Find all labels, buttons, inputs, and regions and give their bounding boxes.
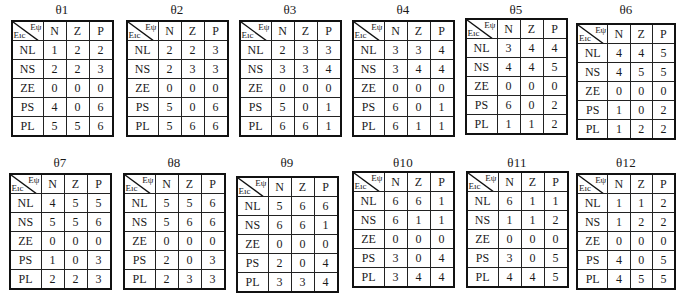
rule-table-t11: EψEıcNZPNL611NS112ZE000PS305PL445 [466,171,569,288]
row-header-ze: ZE [466,77,498,96]
table-row: ZE000 [577,232,675,251]
rule-table-block-t6: θ6EψEıcNZPNL445NS455ZE000PS102PL122 [576,2,676,140]
table-header-row: EψEıcNZP [353,172,454,192]
rule-table-t10: EψEıcNZPNL661NS611ZE000PS304PL344 [352,171,455,288]
table-row: PL566 [127,117,228,137]
cell-ze-z: 0 [64,232,87,251]
cell-nl-n: 5 [155,194,178,213]
corner-row-label: Eıc [579,33,591,43]
cell-ns-n: 4 [497,58,520,77]
column-header-n: N [384,21,407,41]
cell-ps-z: 0 [630,101,652,120]
column-header-p: P [317,21,341,41]
row-header-pl: PL [577,270,608,290]
corner-row-label: Eıc [14,30,26,40]
cell-ns-z: 1 [407,211,430,230]
cell-ps-p: 5 [544,249,568,268]
cell-ns-p: 5 [543,58,567,77]
cell-ps-n: 2 [268,254,291,273]
column-header-z: Z [630,24,652,44]
cell-nl-p: 5 [652,44,675,63]
row-header-nl: NL [10,194,42,213]
rule-table-block-t7: θ7EψEıcNZPNL455NS556ZE000PS103PL223 [6,155,114,290]
cell-ps-z: 0 [407,98,430,117]
column-header-z: Z [181,21,204,41]
column-header-p: P [314,177,338,197]
cell-ze-z: 0 [407,230,430,249]
column-header-n: N [498,172,521,192]
cell-pl-n: 3 [384,268,407,288]
cell-pl-p: 4 [430,268,454,288]
row-header-pl: PL [467,268,499,288]
cell-nl-p: 1 [544,192,568,211]
column-header-z: Z [407,172,430,192]
cell-nl-p: 4 [543,39,567,58]
row-header-ns: NS [240,60,272,79]
cell-pl-z: 6 [294,117,317,137]
row-header-ze: ZE [467,230,499,249]
row-header-nl: NL [240,41,272,60]
rule-table-t3: EψEıcNZPNL233NS334ZE000PS501PL661 [239,20,342,137]
cell-pl-z: 6 [181,117,204,137]
cell-pl-n: 5 [43,117,66,137]
cell-ps-z: 0 [181,98,204,117]
cell-pl-n: 2 [155,270,178,290]
table-row: PL334 [237,273,338,293]
table-header-row: EψEıcNZP [577,24,675,44]
cell-ns-n: 1 [608,213,630,232]
cell-nl-z: 2 [181,41,204,60]
cell-nl-n: 6 [498,192,521,211]
cell-ns-p: 6 [87,213,111,232]
cell-ns-z: 1 [521,211,544,230]
row-header-ns: NS [124,213,156,232]
cell-ns-n: 1 [498,211,521,230]
cell-pl-n: 5 [158,117,181,137]
cell-nl-p: 2 [89,41,113,60]
rule-table-block-t1: θ1EψEıcNZPNL122NS223ZE000PS406PL556 [6,2,118,137]
column-header-p: P [544,172,568,192]
table-row: PS602 [466,96,567,115]
rule-table-block-t12: θ12EψEıcNZPNL112NS122ZE000PS405PL455 [576,155,676,290]
corner-column-label: Eψ [484,20,495,30]
cell-ps-n: 3 [498,249,521,268]
column-header-n: N [608,174,630,194]
row-header-ze: ZE [353,79,385,98]
table-row: NS122 [577,213,675,232]
row-header-nl: NL [467,192,499,211]
cell-ze-n: 0 [43,79,66,98]
column-header-n: N [158,21,181,41]
row-header-nl: NL [237,197,269,216]
table-row: ZE000 [577,82,675,101]
corner-column-label: Eψ [595,25,606,35]
table-row: NL556 [124,194,225,213]
rule-table-block-t10: θ10EψEıcNZPNL661NS611ZE000PS304PL344 [348,155,458,288]
column-header-z: Z [178,174,201,194]
rule-table-block-t3: θ3EψEıcNZPNL233NS334ZE000PS501PL661 [236,2,344,137]
cell-pl-p: 6 [89,117,113,137]
row-header-nl: NL [353,41,385,60]
corner-column-label: Eψ [258,22,269,32]
cell-nl-n: 1 [608,194,630,213]
cell-ps-p: 2 [652,101,675,120]
cell-ze-p: 0 [543,77,567,96]
cell-ns-n: 6 [268,216,291,235]
table-row: PL445 [467,268,568,288]
table-row: PL344 [353,268,454,288]
corner-column-label: Eψ [371,22,382,32]
column-header-z: Z [291,177,314,197]
cell-pl-p: 5 [544,268,568,288]
cell-ze-z: 0 [66,79,89,98]
rule-table-block-t11: θ11EψEıcNZPNL611NS112ZE000PS305PL445 [464,155,570,288]
cell-ze-z: 0 [520,77,543,96]
table-header-row: EψEıcNZP [12,21,113,41]
column-header-z: Z [64,174,87,194]
cell-ps-n: 1 [41,251,64,270]
table-row: ZE000 [127,79,228,98]
rule-table-t4: EψEıcNZPNL334NS344ZE000PS601PL611 [352,20,455,137]
cell-ze-z: 0 [291,235,314,254]
corner-row-label: Eıc [242,30,254,40]
cell-pl-z: 5 [630,270,652,290]
cell-ns-z: 6 [178,213,201,232]
cell-ns-n: 3 [271,60,294,79]
cell-pl-p: 6 [204,117,228,137]
